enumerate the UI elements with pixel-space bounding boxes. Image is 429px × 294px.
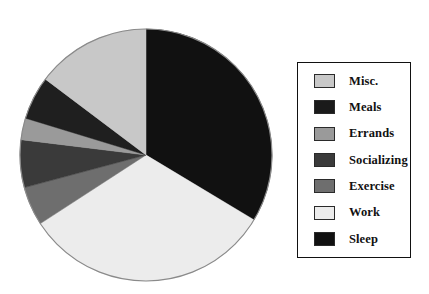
pie-chart-plot-area	[18, 27, 274, 283]
legend-swatch-meals	[314, 100, 335, 114]
legend-label-sleep: Sleep	[349, 233, 378, 246]
legend-item-misc[interactable]: Misc.	[298, 69, 410, 93]
legend-swatch-socializing	[314, 153, 335, 167]
legend-swatch-work	[314, 206, 335, 220]
legend-label-exercise: Exercise	[349, 180, 395, 193]
pie-chart-svg	[18, 27, 274, 283]
legend-label-misc: Misc.	[349, 75, 378, 88]
legend-label-meals: Meals	[349, 101, 381, 114]
legend-item-exercise[interactable]: Exercise	[298, 174, 410, 198]
legend-label-work: Work	[349, 206, 380, 219]
legend-swatch-errands	[314, 127, 335, 141]
legend-swatch-sleep	[314, 232, 335, 246]
legend-item-work[interactable]: Work	[298, 201, 410, 225]
pie-slice-group	[20, 29, 272, 281]
legend-label-errands: Errands	[349, 127, 394, 140]
legend-swatch-misc	[314, 74, 335, 88]
legend-item-sleep[interactable]: Sleep	[298, 227, 410, 251]
pie-chart-figure: Misc.MealsErrandsSocializingExerciseWork…	[0, 0, 429, 294]
legend-item-socializing[interactable]: Socializing	[298, 148, 410, 172]
chart-legend: Misc.MealsErrandsSocializingExerciseWork…	[297, 62, 411, 258]
legend-swatch-exercise	[314, 179, 335, 193]
legend-label-socializing: Socializing	[349, 154, 408, 167]
legend-item-errands[interactable]: Errands	[298, 122, 410, 146]
legend-item-meals[interactable]: Meals	[298, 95, 410, 119]
legend-item-list: Misc.MealsErrandsSocializingExerciseWork…	[298, 63, 410, 257]
